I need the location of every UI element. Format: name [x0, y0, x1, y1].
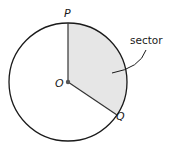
center-point-icon — [66, 80, 70, 84]
sector-diagram: P O Q sector — [0, 0, 172, 147]
label-p: P — [64, 7, 71, 20]
label-q: Q — [116, 110, 125, 123]
label-o: O — [55, 77, 64, 90]
label-sector: sector — [130, 34, 163, 46]
